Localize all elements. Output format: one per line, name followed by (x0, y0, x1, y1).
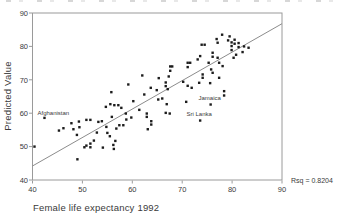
data-point (115, 127, 117, 129)
data-point (158, 77, 160, 79)
data-point (216, 57, 218, 59)
y-tick-label: 60 (20, 109, 28, 118)
data-point (120, 107, 122, 109)
data-point (241, 51, 243, 53)
data-point (89, 119, 91, 121)
data-point (78, 126, 80, 128)
data-point (161, 97, 163, 99)
data-point (207, 62, 209, 64)
data-point (96, 131, 98, 133)
data-point (150, 87, 152, 89)
y-tick-label: 90 (20, 9, 28, 18)
data-point (233, 43, 235, 45)
data-point (169, 70, 171, 72)
data-point (114, 140, 116, 142)
data-point (171, 65, 173, 67)
data-point (228, 35, 230, 37)
data-point (196, 58, 198, 60)
data-point (201, 73, 203, 75)
data-point (101, 120, 103, 122)
data-point (237, 46, 239, 48)
data-point (76, 158, 78, 160)
data-point (157, 98, 159, 100)
rsq-annotation: Rsq = 0.8204 (291, 177, 333, 184)
data-point (230, 41, 232, 43)
x-tick-label: 60 (128, 185, 136, 194)
data-point (215, 38, 217, 40)
data-point (221, 65, 223, 67)
data-point (70, 122, 72, 124)
data-point (58, 129, 60, 131)
data-point (125, 118, 127, 120)
data-point (203, 44, 205, 46)
data-point (109, 135, 111, 137)
labeled-data-point (43, 117, 45, 119)
data-point (169, 112, 171, 114)
data-point (232, 57, 234, 59)
data-point (235, 54, 237, 56)
data-point (117, 104, 119, 106)
data-point (168, 75, 170, 77)
data-point (185, 101, 187, 103)
data-point (186, 62, 188, 64)
plot-frame (33, 13, 283, 180)
country-label: Sri Lanka (186, 111, 212, 117)
data-point (89, 146, 91, 148)
data-point (110, 91, 112, 93)
data-point (230, 49, 232, 51)
data-point (166, 103, 168, 105)
data-point (85, 119, 87, 121)
data-point (211, 72, 213, 74)
data-point (218, 77, 220, 79)
data-point (216, 42, 218, 44)
data-point (76, 134, 78, 136)
data-point (118, 124, 120, 126)
data-point (150, 123, 152, 125)
x-tick-label: 50 (78, 185, 86, 194)
data-point (200, 44, 202, 46)
data-point (165, 85, 167, 87)
data-point (105, 106, 107, 108)
data-point (105, 126, 107, 128)
data-point (190, 87, 192, 89)
data-point (72, 128, 74, 130)
data-point (93, 139, 95, 141)
data-point (146, 116, 148, 118)
data-point (122, 124, 124, 126)
data-point (211, 52, 213, 54)
data-point (132, 100, 134, 102)
data-point (230, 45, 232, 47)
labeled-data-point (209, 103, 211, 105)
data-point (150, 120, 152, 122)
data-point (233, 39, 235, 41)
fit-line (33, 24, 283, 166)
y-tick-label: 50 (20, 142, 28, 151)
x-axis-title: Female life expectancy 1992 (33, 202, 159, 213)
data-point (102, 146, 104, 148)
data-point (146, 112, 148, 114)
plot-area: 405060708090405060708090AfghanistanJamai… (0, 0, 345, 218)
data-point (113, 148, 115, 150)
data-point (209, 82, 211, 84)
data-point (33, 145, 35, 147)
x-tick-label: 90 (278, 185, 286, 194)
scatter-chart: Predicted Value 405060708090405060708090… (0, 0, 345, 218)
data-point (97, 121, 99, 123)
data-point (223, 94, 225, 96)
data-point (62, 127, 64, 129)
data-point (243, 45, 245, 47)
data-point (210, 68, 212, 70)
labeled-data-point (199, 119, 201, 121)
y-tick-label: 70 (20, 76, 28, 85)
country-label: Afghanistan (37, 110, 69, 116)
data-point (211, 56, 213, 58)
data-point (111, 116, 113, 118)
data-point (165, 81, 167, 83)
data-point (186, 66, 188, 68)
data-point (147, 128, 149, 130)
data-point (201, 77, 203, 79)
data-point (218, 62, 220, 64)
data-point (167, 88, 169, 90)
data-point (223, 90, 225, 92)
data-point (237, 42, 239, 44)
